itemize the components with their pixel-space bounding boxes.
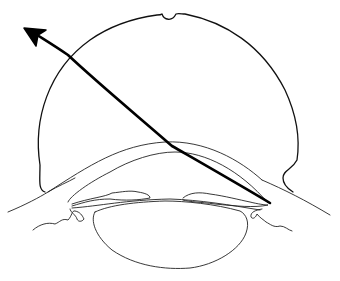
crystalline-lens (93, 201, 247, 268)
cornea-inner (68, 152, 268, 203)
ciliary-body-left (33, 209, 84, 230)
eye-gonioscopy-diagram (0, 0, 340, 281)
cornea-outer (48, 142, 262, 192)
ciliary-body-right (251, 209, 292, 231)
sclera-line-right (262, 180, 330, 215)
contact-lens-outline (38, 14, 298, 192)
sclera-line-left (8, 178, 75, 212)
